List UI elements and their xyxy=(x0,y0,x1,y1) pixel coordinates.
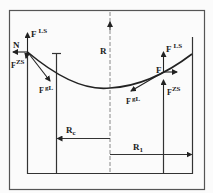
outer-frame xyxy=(10,11,205,190)
label-R1: R1 xyxy=(133,142,144,154)
label-left-F-LS: FLS xyxy=(31,27,47,39)
label-R: R xyxy=(100,46,107,56)
label-right-F-gL: FgL xyxy=(126,95,140,106)
label-right-F-LS: FLS xyxy=(166,42,182,54)
label-Rc: Rc xyxy=(66,125,76,137)
label-right-F: F xyxy=(156,65,162,75)
label-left-F-gL: FgL xyxy=(39,84,53,95)
label-left-F-ZS: FZS xyxy=(11,58,25,70)
force-diagram: N FLS FZS FgL R FLS F FZS FgL Rc R1 xyxy=(0,0,213,193)
label-right-F-ZS: FZS xyxy=(167,85,181,97)
label-N: N xyxy=(13,40,20,50)
